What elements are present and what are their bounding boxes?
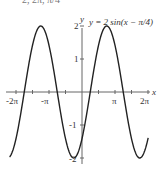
y-tick-label: 1 — [74, 54, 79, 64]
x-tick-label: π — [112, 96, 117, 106]
sine-chart: x y -2π -π π 2π 2 1 -1 -2 y = 2 sin(x − … — [0, 0, 159, 170]
x-axis-label: x — [151, 87, 156, 97]
equation-annotation: y = 2 sin(x − π/4) — [88, 17, 153, 27]
y-tick-label: 2 — [74, 21, 79, 31]
x-tick-label: 2π — [140, 96, 150, 106]
y-axis-label: y — [79, 14, 84, 24]
y-tick-label: -2 — [69, 154, 77, 164]
y-tick-label: -1 — [69, 120, 77, 130]
x-tick-label: -π — [41, 96, 49, 106]
x-tick-label: -2π — [6, 96, 18, 106]
